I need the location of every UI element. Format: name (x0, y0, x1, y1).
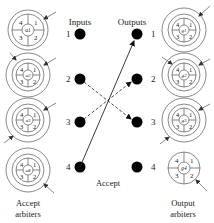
a4-sector-3: 3 (20, 173, 23, 180)
g3-sector-4: 4 (176, 111, 180, 118)
g3-name: g3 (182, 118, 188, 123)
output-node-2: 2 (132, 74, 156, 85)
g1-sector-2: 2 (189, 33, 192, 40)
g2-name: g2 (182, 73, 188, 78)
a1-name: a1 (25, 27, 31, 33)
a4-sector-1: 1 (33, 161, 36, 168)
output-node-4: 4 (132, 162, 157, 173)
a2-sector-4: 4 (20, 66, 24, 73)
svg-text:1: 1 (66, 29, 71, 39)
a3-sector-2: 2 (33, 123, 36, 130)
input-node-3: 3 (66, 117, 86, 128)
a1-sector-2: 2 (34, 34, 38, 42)
a3-sector-1: 1 (33, 111, 36, 118)
g4-name: g4 (181, 165, 187, 171)
a2-name: a2 (26, 73, 32, 78)
g4-sector-1: 1 (190, 157, 194, 165)
svg-text:4: 4 (66, 162, 71, 172)
svg-text:1: 1 (151, 29, 156, 39)
g4-sector-3: 3 (175, 172, 179, 180)
output-arbiters-caption-line1: Output (171, 198, 195, 208)
a1-sector-4: 4 (19, 19, 23, 27)
a2-sector-2: 2 (33, 78, 36, 85)
output-arbiters-caption-line2: arbiters (170, 209, 196, 219)
g2-sector-3: 3 (176, 78, 179, 85)
accept-arbiters-caption-line2: arbiters (15, 209, 41, 219)
svg-text:2: 2 (151, 74, 156, 84)
output-node-1: 1 (132, 29, 156, 40)
accept-arbiter-a1 (8, 10, 56, 50)
svg-text:3: 3 (66, 117, 71, 127)
input-node-1: 1 (66, 29, 86, 40)
g4-sector-2: 2 (190, 172, 194, 180)
g3-sector-3: 3 (176, 123, 179, 130)
g1-sector-1: 1 (189, 21, 192, 28)
g2-sector-2: 2 (189, 78, 192, 85)
svg-text:2: 2 (66, 74, 71, 84)
accept-label: Accept (96, 178, 121, 188)
a3-sector-3: 3 (20, 123, 23, 130)
input-node-4: 4 (66, 162, 86, 173)
accept-arrow-input4-output1 (80, 41, 134, 167)
g1-sector-3: 3 (176, 33, 179, 40)
inputs-header: Inputs (69, 17, 92, 27)
a2-sector-1: 1 (33, 66, 36, 73)
accept-arbiters-caption-line1: Accept (16, 198, 41, 208)
input-node-2: 2 (66, 74, 86, 85)
g3-sector-2: 2 (189, 123, 192, 130)
g2-sector-4: 4 (176, 66, 180, 73)
g4-sector-4: 4 (175, 157, 179, 165)
arbiter-diagram: Inputs Outputs 1 2 3 4 1 2 3 4 Accept (0, 0, 214, 223)
output-arbiter-g4 (168, 152, 207, 191)
svg-text:3: 3 (151, 117, 156, 127)
output-node-3: 3 (132, 117, 157, 128)
g1-sector-4: 4 (176, 21, 180, 28)
a2-sector-3: 3 (20, 78, 23, 85)
a4-name: a4 (26, 168, 32, 173)
a4-sector-4: 4 (20, 161, 24, 168)
accept-arbiter-a2 (6, 53, 56, 97)
g2-sector-1: 1 (189, 66, 192, 73)
a1-sector-3: 3 (19, 34, 23, 42)
outputs-header: Outputs (118, 17, 147, 27)
g3-sector-1: 1 (189, 111, 192, 118)
a4-sector-2: 2 (33, 173, 36, 180)
a3-sector-4: 4 (20, 111, 24, 118)
svg-text:4: 4 (151, 162, 156, 172)
g1-name: g1 (182, 28, 187, 33)
a3-name: a3 (26, 118, 32, 123)
a1-sector-1: 1 (34, 19, 38, 27)
